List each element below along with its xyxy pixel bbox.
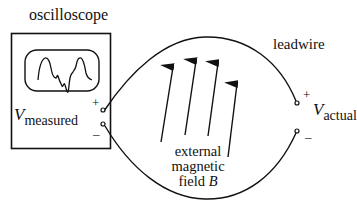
v-actual-subscript: actual xyxy=(323,108,356,123)
field-arrow-1 xyxy=(161,67,173,142)
waveform-trace xyxy=(38,58,92,92)
field-symbol-b: B xyxy=(209,173,218,189)
left-minus-terminal xyxy=(101,122,105,126)
field-arrow-2 xyxy=(185,61,196,135)
field-label-text: field xyxy=(178,173,208,189)
v-actual-label: Vactual xyxy=(313,101,357,118)
v-measured-subscript: measured xyxy=(24,113,78,128)
v-actual-symbol: V xyxy=(313,100,323,119)
field-label: external magnetic field B xyxy=(163,144,233,189)
right-minus-sign: – xyxy=(305,130,312,143)
left-plus-terminal xyxy=(101,108,105,112)
leadwire-label: leadwire xyxy=(273,37,325,52)
field-label-line3: field B xyxy=(163,174,233,189)
right-plus-sign: + xyxy=(303,88,310,101)
right-plus-terminal xyxy=(295,101,299,105)
field-label-line1: external xyxy=(163,144,233,159)
right-minus-terminal xyxy=(295,129,299,133)
left-minus-sign: – xyxy=(93,127,100,140)
v-measured-label: Vmeasured xyxy=(14,106,78,123)
left-plus-sign: + xyxy=(92,96,99,109)
oscilloscope-label: oscilloscope xyxy=(29,7,108,23)
field-arrow-3 xyxy=(208,63,218,136)
diagram-canvas: oscilloscope leadwire Vmeasured Vactual … xyxy=(0,0,357,210)
leadwire-top xyxy=(104,37,296,111)
v-measured-symbol: V xyxy=(14,105,24,124)
field-label-line2: magnetic xyxy=(163,159,233,174)
